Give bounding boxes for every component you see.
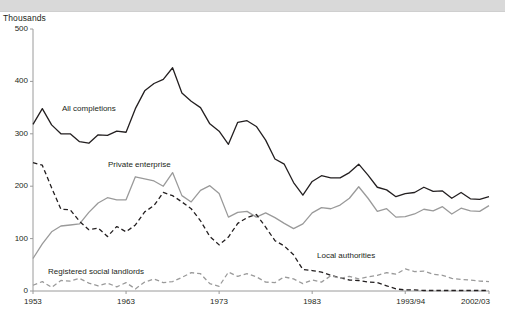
chart-axes [30, 29, 489, 294]
x-axis-tick-label: 2002/03 [461, 297, 490, 306]
chart-series [33, 68, 489, 291]
series-label-all-completions: All completions [62, 104, 116, 113]
x-axis-tick-label: 1993/94 [396, 297, 425, 306]
y-axis-tick-label: 200 [2, 181, 28, 190]
y-axis-tick-label: 500 [2, 24, 28, 33]
x-axis-tick-label: 1973 [210, 297, 228, 306]
x-axis-tick-label: 1983 [303, 297, 321, 306]
y-axis-tick-label: 100 [2, 234, 28, 243]
series-label-local-authorities: Local authorities [317, 251, 375, 260]
y-axis-tick-label: 300 [2, 129, 28, 138]
series-label-registered-social-landlords: Registered social landlords [48, 267, 144, 276]
chart-figure: Thousands 500400300200100019531963197319… [0, 0, 505, 314]
x-axis-tick-label: 1963 [117, 297, 135, 306]
y-axis-tick-label: 400 [2, 76, 28, 85]
y-axis-tick-label: 0 [2, 286, 28, 295]
series-line-private-enterprise [33, 173, 489, 259]
series-line-all-completions [33, 68, 489, 200]
series-label-private-enterprise: Private enterprise [108, 160, 171, 169]
x-axis-tick-label: 1953 [24, 297, 42, 306]
